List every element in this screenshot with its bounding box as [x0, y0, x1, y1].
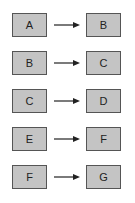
source-box: F: [12, 165, 47, 189]
arrow-right-icon: [54, 22, 80, 28]
source-box: B: [12, 51, 47, 75]
mapping-row: A B: [0, 13, 135, 37]
source-box: C: [12, 89, 47, 113]
source-box: A: [12, 13, 47, 37]
target-box: D: [86, 89, 121, 113]
mapping-row: F G: [0, 165, 135, 189]
target-box: B: [86, 13, 121, 37]
mapping-row: C D: [0, 89, 135, 113]
arrow-right-icon: [54, 60, 80, 66]
target-box: F: [86, 127, 121, 151]
arrow-right-icon: [54, 98, 80, 104]
source-box: E: [12, 127, 47, 151]
mapping-row: E F: [0, 127, 135, 151]
target-box: G: [86, 165, 121, 189]
arrow-right-icon: [54, 136, 80, 142]
mapping-row: B C: [0, 51, 135, 75]
arrow-right-icon: [54, 174, 80, 180]
target-box: C: [86, 51, 121, 75]
